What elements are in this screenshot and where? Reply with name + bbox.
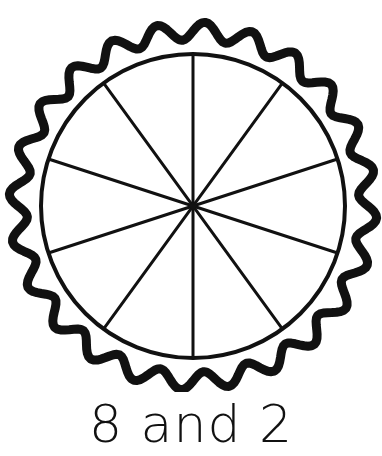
- caption-row: 8 and 2: [0, 392, 382, 456]
- worksheet-page: 8 and 2: [0, 0, 382, 456]
- pie-figure: [0, 0, 382, 392]
- caption-text: 8 and 2: [89, 398, 293, 450]
- pie-diagram-svg: [0, 0, 382, 392]
- pie-center-point: [190, 203, 196, 209]
